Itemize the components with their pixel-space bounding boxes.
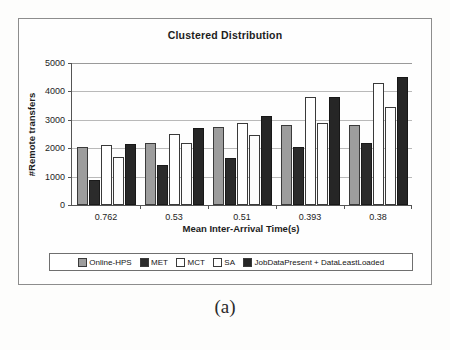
y-tick-label: 5000 <box>45 58 65 68</box>
x-tick-label: 0.393 <box>299 212 322 222</box>
bar <box>397 77 408 205</box>
y-tick-label: 3000 <box>45 115 65 125</box>
y-tick-label: 0 <box>60 200 65 210</box>
bar <box>361 143 372 205</box>
bar <box>157 165 168 205</box>
y-axis-title-label: #Remote transfers <box>27 92 38 175</box>
x-tick-label: 0.762 <box>95 212 118 222</box>
bar-group <box>72 63 140 205</box>
bar <box>237 123 248 205</box>
bar <box>373 83 384 205</box>
legend-swatch <box>213 258 222 267</box>
bar <box>125 144 136 205</box>
bar <box>349 125 360 205</box>
legend-label: JobDataPresent + DataLeastLoaded <box>254 258 384 267</box>
bar <box>169 134 180 205</box>
bar <box>329 97 340 205</box>
figure-page: Clustered Distribution #Remote transfers… <box>0 0 450 350</box>
bar <box>305 97 316 205</box>
bar <box>213 127 224 205</box>
legend-item[interactable]: MET <box>140 258 168 267</box>
bar <box>193 128 204 205</box>
y-tick-label: 1000 <box>45 172 65 182</box>
bar <box>281 125 292 205</box>
legend-item[interactable]: JobDataPresent + DataLeastLoaded <box>243 258 384 267</box>
legend-label: MCT <box>187 258 204 267</box>
legend-label: SA <box>224 258 235 267</box>
legend-label: MET <box>151 258 168 267</box>
x-tick-mark <box>208 205 209 209</box>
legend-item[interactable]: MCT <box>176 258 205 267</box>
bar <box>101 145 112 205</box>
legend-swatch <box>243 258 252 267</box>
x-tick-mark <box>411 205 412 209</box>
bar <box>145 143 156 205</box>
x-tick-label: 0.51 <box>233 212 251 222</box>
bar <box>113 157 124 205</box>
bar <box>293 147 304 205</box>
legend-swatch <box>140 258 149 267</box>
figure-frame: Clustered Distribution #Remote transfers… <box>18 18 432 285</box>
legend-swatch <box>176 258 185 267</box>
plot-area: 0100020003000400050000.7620.530.510.3930… <box>71 63 412 206</box>
y-axis-title: #Remote transfers <box>25 63 39 205</box>
x-tick-mark <box>344 205 345 209</box>
bar <box>261 116 272 205</box>
chart-legend: Online-HPSMETMCTSAJobDataPresent + DataL… <box>49 253 413 271</box>
x-tick-label: 0.53 <box>165 212 183 222</box>
bar <box>77 147 88 205</box>
legend-label: Online-HPS <box>89 258 131 267</box>
y-tick-label: 2000 <box>45 143 65 153</box>
bar <box>89 180 100 205</box>
bar-group <box>208 63 276 205</box>
x-tick-label: 0.38 <box>369 212 387 222</box>
chart-title: Clustered Distribution <box>19 29 431 41</box>
bar <box>385 107 396 205</box>
figure-caption: (a) <box>0 296 450 318</box>
x-tick-mark <box>276 205 277 209</box>
legend-swatch <box>78 258 87 267</box>
bar-group <box>344 63 412 205</box>
bar <box>249 135 260 205</box>
bar <box>317 123 328 205</box>
bar <box>225 158 236 205</box>
plot-inner: 0100020003000400050000.7620.530.510.3930… <box>72 63 412 205</box>
bar-group <box>140 63 208 205</box>
x-axis-title: Mean Inter-Arrival Time(s) <box>71 223 411 234</box>
y-tick-label: 4000 <box>45 86 65 96</box>
legend-item[interactable]: Online-HPS <box>78 258 132 267</box>
y-tick-mark <box>68 205 72 206</box>
legend-item[interactable]: SA <box>213 258 235 267</box>
bar-group <box>276 63 344 205</box>
bar <box>181 143 192 205</box>
x-tick-mark <box>140 205 141 209</box>
